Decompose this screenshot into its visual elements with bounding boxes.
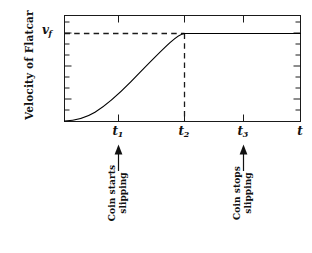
x-tick-label-t3-subscript: 3 bbox=[243, 129, 249, 139]
annotation-coin-stops-slipping-line1: Coin stops bbox=[232, 160, 243, 226]
x-tick-label-t2-subscript: 2 bbox=[184, 129, 190, 139]
x-tick-label-t2: t2 bbox=[179, 125, 190, 138]
top-axis-ticks bbox=[119, 16, 244, 23]
x-axis-label-t-text: t bbox=[297, 124, 303, 138]
x-axis-ticks bbox=[119, 115, 244, 122]
annotation-coin-stops-slipping: Coin stops slipping bbox=[210, 182, 276, 248]
annotation-coin-stops-slipping-line2: slipping bbox=[243, 160, 254, 226]
x-tick-label-t3: t3 bbox=[238, 125, 249, 138]
x-tick-label-t1-subscript: 1 bbox=[118, 129, 124, 139]
annotation-coin-starts-slipping-line1: Coin starts bbox=[107, 160, 118, 226]
annotation-coin-starts-slipping-line2: slipping bbox=[118, 160, 129, 226]
x-tick-label-t1: t1 bbox=[113, 125, 124, 138]
plot-frame bbox=[65, 16, 301, 122]
right-axis-ticks bbox=[294, 22, 301, 110]
velocity-curve bbox=[65, 34, 301, 122]
y-axis-ticks bbox=[65, 22, 72, 110]
annotation-coin-starts-slipping: Coin starts slipping bbox=[85, 182, 151, 248]
x-axis-label-t: t bbox=[297, 125, 303, 137]
velocity-time-figure: Velocity of Flatcar vf bbox=[0, 0, 312, 253]
